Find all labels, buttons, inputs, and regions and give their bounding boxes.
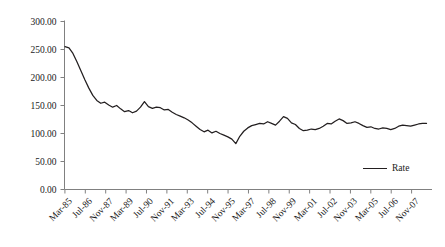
y-axis-tick-label: 150.00 — [0, 101, 57, 111]
chart-legend: Rate — [363, 163, 409, 173]
legend-line-swatch-rate — [363, 168, 387, 169]
y-axis-tick-label: 200.00 — [0, 73, 57, 83]
legend-label-rate: Rate — [392, 163, 409, 173]
chart-container: 0.0050.00100.00150.00200.00250.00300.00 … — [0, 0, 445, 247]
y-axis-tick-label: 250.00 — [0, 45, 57, 55]
y-axis-tick-label: 50.00 — [0, 157, 57, 167]
data-series-rate-line — [65, 47, 427, 144]
y-axis-tick-label: 300.00 — [0, 17, 57, 27]
y-axis-tick-label: 100.00 — [0, 129, 57, 139]
y-axis-tick-label: 0.00 — [0, 185, 57, 195]
